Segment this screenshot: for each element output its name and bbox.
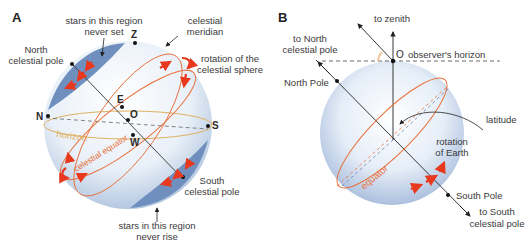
origin-label: O <box>130 109 138 120</box>
panel-a-letter: A <box>12 10 22 25</box>
to-scp-label-1: to South <box>479 206 514 217</box>
celestial-sphere-diagram: A <box>0 0 531 242</box>
north-label: N <box>36 111 43 122</box>
horizon-angle <box>378 52 382 61</box>
panel-b: B to zenith to Nor <box>278 10 524 229</box>
scp-label-1: South <box>200 175 225 186</box>
south-pole-point <box>446 193 450 197</box>
rotation-earth-label-1: rotation <box>436 136 468 147</box>
scp-point <box>181 175 185 179</box>
observer-horizon-label: observer's horizon <box>408 49 485 60</box>
to-ncp-label-1: to North <box>293 33 327 44</box>
south-label: S <box>212 120 219 131</box>
observer-origin-label: O <box>396 49 404 60</box>
ncp-label-2: celestial pole <box>9 55 64 66</box>
to-ncp-label-2: celestial pole <box>283 44 338 55</box>
rotation-label-1: rotation of the <box>201 53 259 64</box>
south-pole-label: South Pole <box>456 190 502 201</box>
meridian-pointer <box>166 36 178 46</box>
east-point <box>120 105 124 109</box>
never-rise-label-2: never rise <box>136 231 178 242</box>
never-set-label-1: stars in this region <box>65 15 142 26</box>
north-pole-point <box>335 79 339 83</box>
ncp-arrow <box>358 24 393 61</box>
north-pole-label: North Pole <box>284 77 329 88</box>
observer-point <box>391 59 395 63</box>
north-point <box>46 114 50 118</box>
south-point <box>206 124 210 128</box>
panel-a: A <box>9 10 263 242</box>
scp-arrow <box>460 206 470 216</box>
celestial-sphere <box>44 41 212 209</box>
ncp-axis-arrow <box>318 62 330 74</box>
earth-sphere <box>320 61 464 205</box>
to-zenith-label: to zenith <box>374 13 410 24</box>
zenith-point <box>133 41 137 45</box>
never-rise-label-1: stars in this region <box>118 220 195 231</box>
panel-b-letter: B <box>278 10 287 25</box>
rotation-label-2: celestial sphere <box>197 64 263 75</box>
never-set-label-2: never set <box>84 26 123 37</box>
latitude-label: latitude <box>486 114 517 125</box>
meridian-label-1: celestial <box>188 15 222 26</box>
scp-label-2: celestial pole <box>185 186 240 197</box>
ncp-point <box>70 62 74 66</box>
rotation-earth-label-2: of Earth <box>435 147 468 158</box>
west-label: W <box>130 137 140 148</box>
to-scp-label-2: celestial pole <box>470 218 525 229</box>
zenith-label: Z <box>131 29 137 40</box>
meridian-label-2: meridian <box>187 26 223 37</box>
ncp-label-1: North <box>24 44 47 55</box>
east-label: E <box>117 94 124 105</box>
